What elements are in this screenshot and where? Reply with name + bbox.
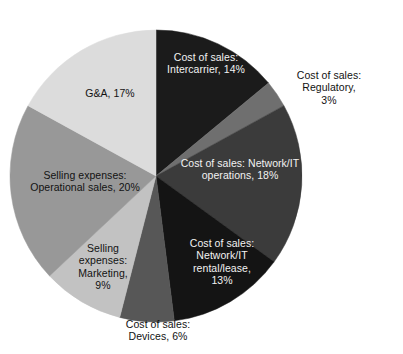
pie-chart: Cost of sales: Intercarrier, 14%Cost of … xyxy=(0,0,403,354)
pie-chart-canvas xyxy=(0,0,403,354)
